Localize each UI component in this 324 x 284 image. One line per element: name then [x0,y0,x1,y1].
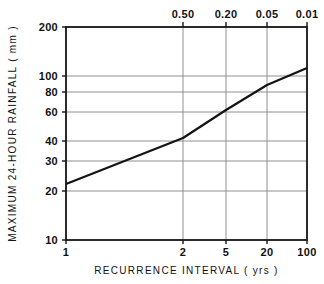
y-axis-tick-label: 40 [45,135,58,147]
x-axis-tick-label: 5 [223,246,229,258]
x-axis-title: RECURRENCE INTERVAL ( yrs ) [94,265,278,276]
y-axis-title: MAXIMUM 24-HOUR RAINFALL ( mm ) [7,25,18,242]
rainfall-frequency-chart: 125201000.500.200.050.012001008060403020… [0,0,324,284]
x-axis-top-tick-label: 0.01 [296,8,319,20]
y-axis-tick-label: 10 [45,234,58,246]
x-axis-tick-label: 100 [297,246,316,258]
x-axis-top-tick-label: 0.50 [172,8,195,20]
y-axis-tick-label: 100 [39,70,58,82]
x-axis-tick-label: 20 [261,246,274,258]
chart-figure: 125201000.500.200.050.012001008060403020… [0,0,324,284]
y-axis-tick-label: 20 [45,185,58,197]
y-axis-tick-label: 80 [45,86,58,98]
x-axis-tick-label: 1 [63,246,69,258]
x-axis-top-tick-label: 0.20 [215,8,238,20]
y-axis-tick-label: 200 [39,21,58,33]
plot-background [66,27,307,240]
y-axis-tick-label: 30 [45,155,58,167]
x-axis-tick-label: 2 [180,246,186,258]
x-axis-top-tick-label: 0.05 [256,8,279,20]
y-axis-tick-label: 60 [45,106,58,118]
